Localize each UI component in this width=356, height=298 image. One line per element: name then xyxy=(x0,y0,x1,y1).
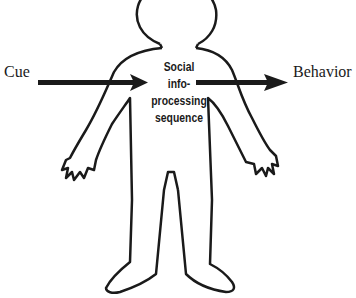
process-label-line: processing xyxy=(141,92,216,109)
head-outline xyxy=(137,0,216,44)
human-figure-outline xyxy=(0,0,356,298)
process-label: Social info- processing sequence xyxy=(141,58,216,126)
right-leg-outline xyxy=(178,190,234,292)
process-label-line: Social xyxy=(141,58,216,75)
cue-label: Cue xyxy=(4,64,30,80)
cue-arrow-icon xyxy=(38,74,148,91)
process-label-line: info- xyxy=(141,75,216,92)
behavior-label: Behavior xyxy=(293,64,352,80)
left-leg-outline xyxy=(106,172,178,293)
diagram-canvas: Cue Behavior Social info- processing seq… xyxy=(0,0,356,298)
process-label-line: sequence xyxy=(141,109,216,126)
